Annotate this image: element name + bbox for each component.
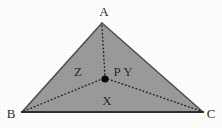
triangle-diagram-canvas [0, 0, 222, 128]
geometry-figure: A B C P Z Y X [0, 0, 222, 128]
region-label-y: Y [123, 65, 132, 78]
region-label-z: Z [74, 65, 82, 78]
vertex-label-a: A [99, 5, 108, 18]
point-label-p: P [113, 65, 120, 78]
vertex-label-b: B [7, 107, 16, 120]
interior-point-p-marker [101, 75, 108, 82]
vertex-label-c: C [207, 107, 216, 120]
region-label-x: X [102, 94, 111, 107]
